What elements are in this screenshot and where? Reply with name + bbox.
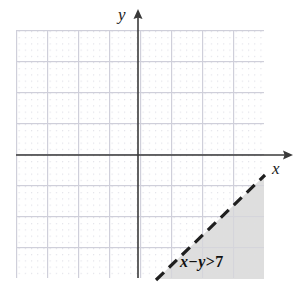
inequality-graph-figure: y x x−y>7 xyxy=(0,0,298,292)
inequality-variable-y: y xyxy=(198,253,206,270)
inequality-operator: > xyxy=(206,253,216,270)
y-axis-arrowhead xyxy=(134,9,143,19)
inequality-variable-x: x xyxy=(180,253,189,270)
y-axis-label: y xyxy=(118,6,126,23)
inequality-annotation: x−y>7 xyxy=(180,254,224,270)
x-axis-label: x xyxy=(272,160,280,177)
inequality-constant: 7 xyxy=(215,253,224,270)
inequality-minus-sign: − xyxy=(189,253,199,270)
coordinate-plane-svg xyxy=(0,0,298,292)
